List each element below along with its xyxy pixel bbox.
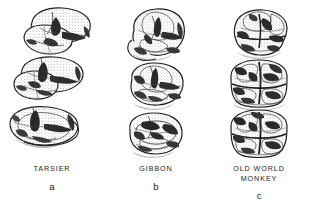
tooth-row-illustration-gibbon xyxy=(104,4,208,162)
caption-old-world-monkey: OLD WORLD MONKEY c xyxy=(207,164,311,201)
specimen-column-tarsier: TARSIER a xyxy=(0,0,104,205)
specimen-label-old-world-monkey: OLD WORLD MONKEY xyxy=(207,164,311,183)
panel-letter-b: b xyxy=(104,182,208,192)
tooth-gibbon-1 xyxy=(128,9,185,61)
specimen-column-gibbon: GIBBON b xyxy=(104,0,208,205)
specimen-label-gibbon: GIBBON xyxy=(104,164,208,174)
tooth-gibbon-2 xyxy=(131,63,183,110)
tooth-gibbon-3 xyxy=(130,113,182,158)
tooth-owm-2 xyxy=(231,60,287,111)
panel-letter-c: c xyxy=(207,191,311,201)
caption-tarsier: TARSIER a xyxy=(0,164,104,192)
tooth-tarsier-3 xyxy=(10,107,79,148)
tooth-row-illustration-old-world-monkey xyxy=(207,4,311,162)
tooth-owm-1 xyxy=(234,10,287,59)
tooth-tarsier-2 xyxy=(14,57,83,99)
tooth-tarsier-1 xyxy=(24,8,90,54)
specimen-label-tarsier: TARSIER xyxy=(0,164,104,174)
tooth-row-illustration-tarsier xyxy=(0,4,104,162)
figure-plate: TARSIER a xyxy=(0,0,311,205)
panel-letter-a: a xyxy=(0,182,104,192)
tooth-owm-3 xyxy=(231,110,287,158)
specimen-column-old-world-monkey: OLD WORLD MONKEY c xyxy=(207,0,311,205)
caption-gibbon: GIBBON b xyxy=(104,164,208,192)
